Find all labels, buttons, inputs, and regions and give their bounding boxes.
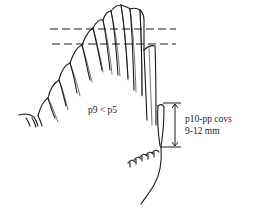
comparison-label: p9 < p5 — [88, 105, 117, 115]
measure-label-line1: p10-pp covs — [185, 114, 232, 124]
measure-label-line2: 9-12 mm — [185, 126, 220, 136]
dashed-reference-lines — [50, 29, 176, 44]
wing-diagram: p9 < p5 p10-pp covs 9-12 mm — [0, 0, 254, 217]
